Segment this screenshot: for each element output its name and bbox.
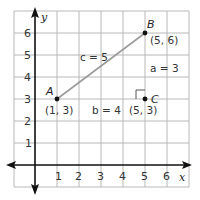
point-a-label: A xyxy=(45,85,54,98)
svg-text:3: 3 xyxy=(97,170,104,183)
svg-text:2: 2 xyxy=(75,170,82,183)
svg-text:6: 6 xyxy=(163,170,170,183)
point-a xyxy=(55,97,60,102)
coordinate-plane: y x 6 5 4 3 2 1 1 2 3 4 5 6 A (1, 3) B (… xyxy=(0,0,200,200)
point-c-coords: (5, 3) xyxy=(129,104,157,116)
svg-text:3: 3 xyxy=(24,93,31,106)
svg-text:5: 5 xyxy=(24,49,31,62)
point-b-label: B xyxy=(147,18,155,31)
y-axis-label: y xyxy=(40,11,48,24)
point-b xyxy=(143,31,148,36)
svg-text:1: 1 xyxy=(25,137,32,150)
svg-text:4: 4 xyxy=(24,71,31,84)
svg-text:6: 6 xyxy=(24,27,31,40)
x-axis-label: x xyxy=(179,171,186,184)
x-tick-labels: 1 2 3 4 5 6 xyxy=(55,170,170,183)
side-a-label: a = 3 xyxy=(150,62,179,74)
svg-text:4: 4 xyxy=(119,170,126,183)
side-c-label: c = 5 xyxy=(80,51,108,63)
svg-text:5: 5 xyxy=(141,170,148,183)
svg-text:1: 1 xyxy=(55,170,62,183)
point-c xyxy=(143,97,148,102)
y-tick-labels: 6 5 4 3 2 1 xyxy=(24,27,32,150)
point-a-coords: (1, 3) xyxy=(45,104,73,116)
point-b-coords: (5, 6) xyxy=(150,34,178,46)
svg-text:2: 2 xyxy=(24,115,31,128)
side-b-label: b = 4 xyxy=(92,104,121,116)
